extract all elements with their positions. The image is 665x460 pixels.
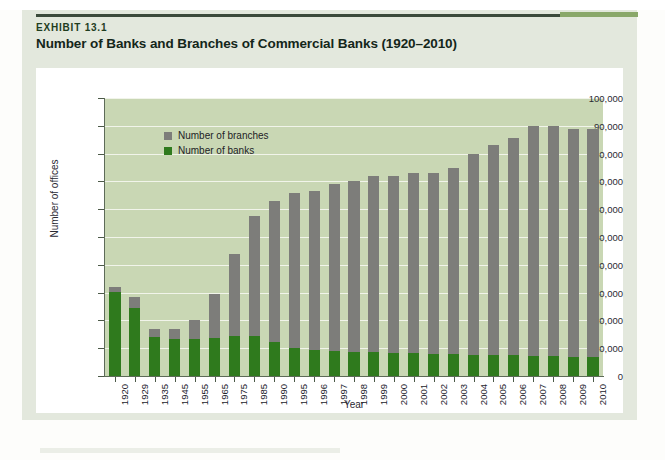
bar-segment-branches[interactable] [528, 126, 539, 356]
page-title: Number of Banks and Branches of Commerci… [36, 36, 457, 51]
bar-segment-branches[interactable] [468, 154, 479, 355]
bar-segment-banks[interactable] [448, 354, 459, 376]
legend-label-banks: Number of banks [178, 145, 254, 156]
bar-segment-banks[interactable] [508, 355, 519, 376]
y-axis-title: Number of offices [49, 134, 60, 264]
bar-segment-banks[interactable] [368, 352, 379, 376]
bar-segment-branches[interactable] [209, 294, 220, 338]
bar-segment-banks[interactable] [169, 339, 180, 376]
bar-segment-branches[interactable] [269, 201, 280, 342]
bar-group[interactable] [468, 98, 479, 376]
legend-swatch-branches-icon [164, 132, 172, 140]
bar-segment-branches[interactable] [568, 129, 579, 357]
x-axis-tick-mark [115, 377, 116, 382]
bar-segment-branches[interactable] [169, 329, 180, 339]
bar-group[interactable] [408, 98, 419, 376]
x-axis-tick-mark [394, 377, 395, 382]
bar-group[interactable] [149, 98, 160, 376]
bar-segment-branches[interactable] [548, 126, 559, 357]
bar-group[interactable] [587, 98, 598, 376]
bar-segment-banks[interactable] [269, 342, 280, 376]
bar-segment-banks[interactable] [289, 348, 300, 376]
bar-segment-branches[interactable] [348, 181, 359, 351]
bar-segment-banks[interactable] [528, 356, 539, 376]
x-axis-tick-mark [573, 377, 574, 382]
bar-group[interactable] [488, 98, 499, 376]
bar-segment-banks[interactable] [189, 339, 200, 376]
x-axis-tick-mark [195, 377, 196, 382]
bar-segment-branches[interactable] [428, 173, 439, 354]
bar-group[interactable] [528, 98, 539, 376]
bar-segment-banks[interactable] [329, 351, 340, 376]
bar-group[interactable] [548, 98, 559, 376]
bar-segment-banks[interactable] [428, 354, 439, 376]
legend-label-branches: Number of branches [178, 130, 269, 141]
bar-segment-branches[interactable] [189, 320, 200, 339]
bar-segment-branches[interactable] [388, 176, 399, 353]
chart-legend: Number of branches Number of banks [164, 130, 269, 160]
exhibit-top-rule [36, 14, 637, 17]
y-axis-tick-mark [98, 293, 104, 294]
bar-segment-branches[interactable] [408, 173, 419, 353]
bar-group[interactable] [289, 98, 300, 376]
bar-group[interactable] [309, 98, 320, 376]
x-axis-tick-mark [454, 377, 455, 382]
page-footer-text [40, 448, 340, 453]
bar-group[interactable] [129, 98, 140, 376]
bar-segment-branches[interactable] [249, 216, 260, 336]
bar-segment-banks[interactable] [568, 357, 579, 376]
y-axis-tick-mark [98, 181, 104, 182]
bar-group[interactable] [388, 98, 399, 376]
bar-segment-banks[interactable] [109, 292, 120, 376]
bar-group[interactable] [508, 98, 519, 376]
bar-segment-banks[interactable] [348, 352, 359, 376]
bar-group[interactable] [428, 98, 439, 376]
y-axis-tick-mark [98, 320, 104, 321]
bar-segment-branches[interactable] [309, 191, 320, 349]
bar-segment-banks[interactable] [548, 356, 559, 376]
legend-swatch-banks-icon [164, 147, 172, 155]
bar-group[interactable] [329, 98, 340, 376]
bar-segment-banks[interactable] [249, 336, 260, 376]
bar-segment-branches[interactable] [448, 168, 459, 355]
x-axis-tick-mark [374, 377, 375, 382]
bar-segment-banks[interactable] [468, 355, 479, 376]
legend-item-banks: Number of banks [164, 145, 269, 156]
bar-segment-branches[interactable] [508, 138, 519, 355]
bar-segment-branches[interactable] [129, 297, 140, 308]
x-axis-tick-mark [593, 377, 594, 382]
y-axis-tick-mark [98, 209, 104, 210]
x-axis-tick-mark [254, 377, 255, 382]
bar-group[interactable] [368, 98, 379, 376]
bar-group[interactable] [269, 98, 280, 376]
bar-segment-banks[interactable] [209, 338, 220, 376]
bar-segment-branches[interactable] [229, 254, 240, 336]
bar-segment-branches[interactable] [289, 193, 300, 349]
bar-segment-branches[interactable] [329, 184, 340, 351]
bar-segment-banks[interactable] [388, 353, 399, 376]
bar-group[interactable] [109, 98, 120, 376]
x-axis-tick-mark [334, 377, 335, 382]
bar-segment-banks[interactable] [149, 337, 160, 376]
bar-segment-branches[interactable] [488, 145, 499, 355]
bar-segment-banks[interactable] [488, 355, 499, 376]
x-axis-tick-mark [175, 377, 176, 382]
exhibit-page: EXHIBIT 13.1 Number of Banks and Branche… [0, 0, 665, 460]
bar-segment-banks[interactable] [309, 350, 320, 376]
bar-segment-banks[interactable] [408, 353, 419, 376]
bar-group[interactable] [348, 98, 359, 376]
x-axis-tick-mark [493, 377, 494, 382]
y-axis-tick-mark [98, 98, 104, 99]
bar-segment-branches[interactable] [149, 329, 160, 337]
bar-group[interactable] [568, 98, 579, 376]
bar-segment-branches[interactable] [587, 129, 598, 358]
chart-container: 010,00020,00030,00040,00050,00060,00070,… [36, 68, 623, 413]
bar-group[interactable] [448, 98, 459, 376]
bar-segment-banks[interactable] [587, 357, 598, 376]
y-axis-tick-mark [98, 237, 104, 238]
y-axis-tick-mark [98, 265, 104, 266]
bar-segment-branches[interactable] [368, 176, 379, 353]
x-axis-tick-mark [234, 377, 235, 382]
bar-segment-banks[interactable] [229, 336, 240, 376]
bar-segment-banks[interactable] [129, 308, 140, 376]
